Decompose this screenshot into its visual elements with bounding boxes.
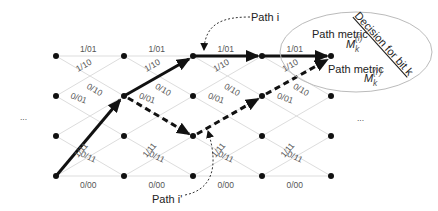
metric-i-sup: (i) (355, 33, 363, 43)
edge-label: 0/01 (207, 90, 226, 105)
trellis-node (259, 173, 265, 179)
path-i-prime-label: Path i' (152, 193, 182, 205)
trellis-diagram: 1/011/100/100/011/110/110/001/011/100/10… (0, 0, 438, 211)
trellis-node (53, 133, 59, 139)
edge-label: 0/00 (287, 180, 304, 190)
edge-label: 1/01 (80, 44, 97, 54)
metric-i-prime-sub: k (373, 78, 378, 88)
edge-label: 1/10 (212, 57, 232, 74)
path-i-label: Path i (251, 11, 279, 23)
edge-label: 1/01 (218, 44, 235, 54)
edge-label: 0/00 (80, 180, 97, 190)
trellis-node (259, 133, 265, 139)
trellis-node (328, 173, 334, 179)
edge-label: 0/01 (138, 90, 157, 105)
metric-i-prime-sup: (i') (373, 67, 382, 77)
edge-label: 0/11 (217, 149, 236, 165)
trellis-node (53, 93, 59, 99)
trellis-node (259, 93, 265, 99)
trellis-node (328, 53, 334, 59)
edge-label: 0/00 (218, 180, 235, 190)
ellipsis-left: ... (20, 112, 27, 122)
edge-label: 0/01 (276, 90, 295, 105)
trellis-node (190, 173, 196, 179)
edge-label: 0/11 (286, 149, 305, 165)
trellis-node (190, 133, 196, 139)
trellis-node (53, 173, 59, 179)
metric-i-sub: k (355, 44, 360, 54)
trellis-node (328, 93, 334, 99)
edge-label: 0/11 (79, 149, 98, 165)
ellipsis-right: ... (357, 113, 364, 123)
path-i-prime-pointer (185, 131, 213, 195)
trellis-node (328, 133, 334, 139)
trellis-node (190, 53, 196, 59)
trellis-node (121, 93, 127, 99)
trellis-node (53, 53, 59, 59)
path-i-prime (128, 60, 327, 134)
trellis-node (121, 173, 127, 179)
trellis-node (121, 133, 127, 139)
edge-label: 1/01 (149, 44, 166, 54)
trellis-node (121, 53, 127, 59)
edge-label: 1/01 (287, 44, 304, 54)
edge-label: 1/10 (143, 57, 163, 74)
trellis-node (190, 93, 196, 99)
edge-label: 0/00 (149, 180, 166, 190)
edge-label: 0/11 (148, 149, 167, 165)
edge-label: 1/10 (74, 57, 94, 74)
edge-label: 0/01 (69, 90, 88, 105)
trellis-node (259, 53, 265, 59)
